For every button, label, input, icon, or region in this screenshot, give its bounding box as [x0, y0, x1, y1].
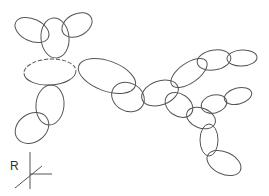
ellipse-bottom — [203, 145, 245, 180]
ellipse-branch-right-1 — [199, 92, 229, 116]
axis-indicator: R — [10, 152, 52, 189]
ellipse-left-arm-upper — [34, 84, 65, 126]
ellipse-ear-right — [58, 8, 97, 42]
ellipse-right-arm — [74, 52, 141, 101]
ellipse-lower-chain-1 — [160, 87, 197, 122]
ellipse-lower-chain-2 — [183, 103, 218, 133]
ellipse-group — [9, 8, 257, 181]
ellipse-head — [39, 17, 70, 59]
axis-diagonal-line — [15, 166, 42, 188]
ellipse-diagram: R — [0, 0, 269, 196]
ellipse-left-arm-lower — [9, 106, 55, 150]
ellipse-ear-left — [11, 12, 53, 47]
dashed-arc-torso — [23, 58, 76, 74]
ellipse-torso — [23, 58, 76, 87]
axis-label-r: R — [10, 159, 19, 173]
ellipse-link-1 — [106, 76, 149, 117]
ellipse-upper-chain-1 — [166, 53, 212, 93]
